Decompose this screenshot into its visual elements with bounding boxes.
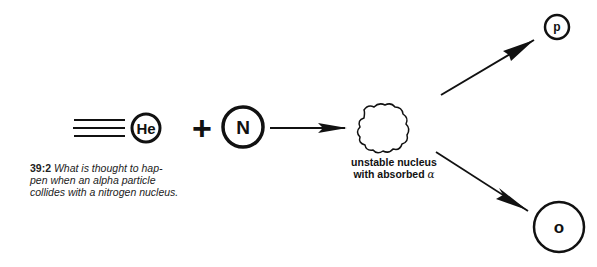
proton-symbol: p [553, 20, 560, 34]
caption-line-3: collides with a nitrogen nucleus. [30, 186, 205, 198]
label-line2-text: with absorbed [353, 168, 424, 180]
arrow-up-right-icon [441, 40, 534, 95]
alpha-symbol: α [428, 168, 435, 180]
nitrogen-nucleus: N [223, 107, 263, 147]
nitrogen-symbol: N [236, 117, 250, 138]
oxygen-symbol: o [554, 218, 564, 237]
proton: p [545, 15, 569, 39]
helium-nucleus: He [132, 114, 160, 142]
caption-line-1: 39:2 What is thought to hap- [30, 162, 205, 174]
unstable-nucleus-label-line2: with absorbed α [344, 168, 444, 180]
unstable-nucleus-label: unstable nucleus with absorbed α [344, 156, 444, 180]
reaction-diagram: He + N p o [0, 0, 597, 267]
plus-sign: + [192, 109, 212, 147]
motion-lines [73, 120, 125, 136]
caption-line-2: pen when an alpha particle [30, 174, 205, 186]
caption-text-1: What is thought to hap- [54, 162, 163, 174]
arrow-down-right-icon [436, 152, 528, 211]
arrow-right-icon [270, 123, 347, 133]
figure-number: 39:2 [30, 162, 51, 174]
unstable-nucleus-blob [358, 104, 409, 153]
figure-caption: 39:2 What is thought to hap- pen when an… [30, 162, 205, 198]
helium-symbol: He [136, 120, 155, 137]
unstable-nucleus-label-line1: unstable nucleus [344, 156, 444, 168]
oxygen-nucleus: o [534, 202, 584, 252]
